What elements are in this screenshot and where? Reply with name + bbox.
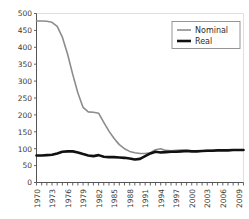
x-tick-label: 1979 [79, 189, 88, 208]
chart-legend: NominalReal [172, 22, 240, 49]
y-tick-label: 350 [18, 60, 33, 69]
legend-label-real: Real [195, 37, 212, 46]
y-tick-label: 200 [18, 111, 33, 120]
y-tick-label: 300 [18, 77, 33, 86]
x-tick-label: 2009 [235, 189, 244, 208]
y-tick-label: 50 [22, 161, 32, 170]
y-tick-label: 450 [18, 26, 33, 35]
y-tick-label: 500 [18, 9, 33, 18]
x-tick-label: 1970 [33, 189, 42, 208]
y-tick-label: 0 [27, 178, 32, 187]
x-tick-label: 2006 [219, 189, 228, 208]
y-tick-label: 100 [18, 145, 33, 154]
x-tick-label: 1976 [64, 189, 73, 208]
x-tick-label: 1991 [141, 189, 150, 208]
y-tick-label: 250 [18, 94, 33, 103]
line-chart: 050100150200250300350400450500 197019731… [0, 0, 249, 219]
y-tick-label: 400 [18, 43, 33, 52]
legend-label-nominal: Nominal [195, 26, 228, 35]
x-tick-label: 1988 [126, 189, 135, 208]
x-tick-label: 1994 [157, 189, 166, 208]
x-tick-label: 2003 [203, 189, 212, 208]
y-tick-label: 150 [18, 128, 33, 137]
x-tick-label: 1973 [48, 189, 57, 208]
chart-container: 050100150200250300350400450500 197019731… [0, 0, 249, 219]
x-tick-label: 1982 [95, 189, 104, 208]
x-tick-label: 2000 [188, 189, 197, 208]
x-tick-label: 1997 [172, 189, 181, 208]
x-tick-label: 1985 [110, 189, 119, 208]
